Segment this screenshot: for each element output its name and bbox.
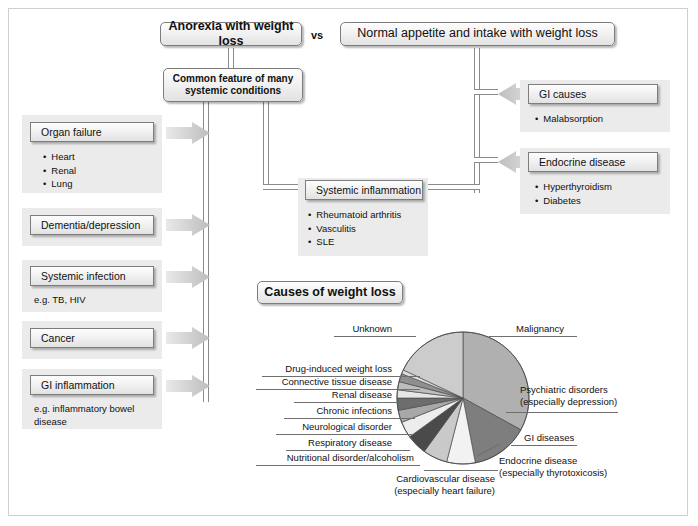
list-item: SLE <box>308 235 401 249</box>
pie-label-drug-induced: Drug-induced weight loss <box>258 363 392 375</box>
common-feature-line1: Common feature of many <box>173 73 294 84</box>
pie-title-label: Causes of weight loss <box>258 285 402 300</box>
leader-psychiatric <box>506 412 618 413</box>
arrow-systemic-infection <box>166 266 210 288</box>
pie-label-respiratory-disease: Respiratory disease <box>282 437 392 449</box>
leader-nutritional-disorder <box>256 465 420 466</box>
pie-label-gi-diseases: GI diseases <box>524 432 574 444</box>
list-endocrine-disease: Hyperthyroidism Diabetes <box>535 180 612 207</box>
arrow-dementia <box>166 214 210 236</box>
pie-label-unknown: Unknown <box>330 323 392 335</box>
box-gi-inflammation-label: GI inflammation <box>41 379 153 392</box>
pie-label-cardiovascular-l2: (especially heart failure) <box>394 485 495 496</box>
arrow-organ-failure <box>166 122 210 144</box>
box-normal-appetite[interactable]: Normal appetite and intake with weight l… <box>340 22 615 46</box>
list-item: Rheumatoid arthritis <box>308 208 401 222</box>
box-gi-causes[interactable]: GI causes <box>528 84 658 104</box>
arrow-gi-inflammation <box>166 375 210 397</box>
box-anorexia-with-weight-loss[interactable]: Anorexia with weight loss <box>160 22 302 46</box>
box-common-feature-label: Common feature of many systemic conditio… <box>164 73 302 97</box>
box-gi-inflammation[interactable]: GI inflammation <box>30 375 154 395</box>
list-systemic-inflammation: Rheumatoid arthritis Vasculitis SLE <box>308 208 401 249</box>
connector-right-to-endocrine <box>474 157 498 163</box>
box-systemic-inflammation-label: Systemic inflammation <box>316 184 422 197</box>
connector-right-to-gi <box>474 89 498 95</box>
box-cancer[interactable]: Cancer <box>30 328 154 348</box>
note-systemic-infection: e.g. TB, HIV <box>34 293 86 306</box>
pie-label-cardiovascular-l1: Cardiovascular disease <box>396 473 495 484</box>
box-common-feature[interactable]: Common feature of many systemic conditio… <box>163 68 303 102</box>
list-item: Malabsorption <box>535 112 603 126</box>
vs-label: vs <box>311 29 323 41</box>
leader-respiratory-disease <box>286 450 410 451</box>
connector-common-spine-right <box>263 102 269 187</box>
box-systemic-infection[interactable]: Systemic infection <box>30 266 154 286</box>
pie-chart <box>396 331 530 465</box>
box-endocrine-disease-label: Endocrine disease <box>539 156 657 169</box>
pie-label-cardiovascular: Cardiovascular disease (especially heart… <box>345 473 495 497</box>
pie-label-nutritional-disorder: Nutritional disorder/alcoholism <box>252 452 414 464</box>
leader-renal-disease <box>294 402 420 403</box>
connector-systemic-to-right-spine <box>424 184 480 190</box>
box-organ-failure[interactable]: Organ failure <box>30 122 154 142</box>
box-dementia-depression[interactable]: Dementia/depression <box>30 215 154 235</box>
connector-anorexia-to-common <box>228 48 234 68</box>
list-organ-failure: Heart Renal Lung <box>43 150 76 191</box>
diagram-page: Anorexia with weight loss vs Normal appe… <box>0 0 698 526</box>
pie-label-endocrine-l1: Endocrine disease <box>499 455 577 466</box>
box-dementia-label: Dementia/depression <box>41 219 153 232</box>
connector-common-spine-left <box>203 102 209 402</box>
pie-label-renal-disease: Renal disease <box>290 389 392 401</box>
list-item: Hyperthyroidism <box>535 180 612 194</box>
note-gi-inflammation: e.g. inflammatory bowel disease <box>34 402 134 428</box>
pie-label-malignancy: Malignancy <box>516 323 564 335</box>
pie-label-psychiatric-l1: Psychiatric disorders <box>520 384 608 395</box>
list-item: Heart <box>43 150 76 164</box>
box-organ-failure-label: Organ failure <box>41 126 153 139</box>
box-cancer-label: Cancer <box>41 332 153 345</box>
leader-unknown <box>334 336 416 337</box>
list-item: Diabetes <box>535 194 612 208</box>
pie-label-endocrine-l2: (especially thyrotoxicosis) <box>499 467 607 478</box>
box-systemic-infection-label: Systemic infection <box>41 270 153 283</box>
pie-label-endocrine: Endocrine disease (especially thyrotoxic… <box>499 455 607 479</box>
arrow-cancer <box>166 327 210 349</box>
common-feature-line2: systemic conditions <box>185 85 281 96</box>
box-anorexia-label: Anorexia with weight loss <box>161 19 301 50</box>
box-gi-causes-label: GI causes <box>539 88 657 101</box>
pie-label-psychiatric-l2: (especially depression) <box>520 396 617 407</box>
list-item: Renal <box>43 164 76 178</box>
box-endocrine-disease[interactable]: Endocrine disease <box>528 152 658 172</box>
list-item: Vasculitis <box>308 222 401 236</box>
box-causes-of-weight-loss[interactable]: Causes of weight loss <box>257 281 403 304</box>
pie-chart-svg <box>396 331 530 465</box>
box-systemic-inflammation[interactable]: Systemic inflammation <box>305 180 423 200</box>
pie-label-chronic-infections: Chronic infections <box>280 405 392 417</box>
pie-label-psychiatric: Psychiatric disorders (especially depres… <box>520 384 617 408</box>
connector-normal-appetite-spine <box>474 48 480 193</box>
box-normal-appetite-label: Normal appetite and intake with weight l… <box>341 26 614 41</box>
leader-malignancy <box>489 336 577 337</box>
pie-label-connective-tissue: Connective tissue disease <box>252 376 392 388</box>
list-item: Lung <box>43 177 76 191</box>
leader-cardiovascular <box>424 470 498 471</box>
list-gi-causes: Malabsorption <box>535 112 603 126</box>
leader-neurological-disorder <box>276 434 412 435</box>
leader-gi-diseases <box>511 445 577 446</box>
leader-chronic-infections <box>284 418 415 419</box>
pie-label-neurological-disorder: Neurological disorder <box>272 421 392 433</box>
